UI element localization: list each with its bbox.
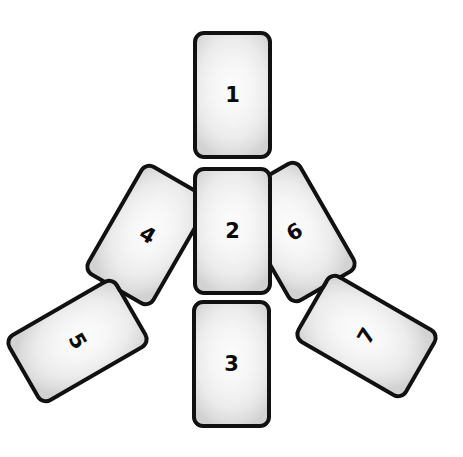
- card-number-label: 5: [65, 329, 90, 352]
- card-number-label: 1: [225, 85, 240, 106]
- card-2[interactable]: 2: [193, 167, 272, 295]
- card-1[interactable]: 1: [193, 31, 272, 159]
- card-number-label: 6: [283, 219, 306, 244]
- card-3[interactable]: 3: [192, 300, 271, 428]
- card-spread-diagram: 1234567: [0, 0, 463, 457]
- card-number-label: 2: [225, 221, 240, 242]
- card-number-label: 7: [354, 324, 379, 347]
- card-number-label: 3: [224, 354, 239, 375]
- card-number-label: 4: [136, 222, 159, 247]
